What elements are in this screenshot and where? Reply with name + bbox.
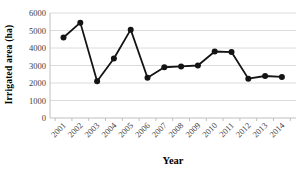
x-tick-label: 2009 bbox=[183, 120, 202, 139]
data-point-marker bbox=[195, 63, 201, 69]
data-point-marker bbox=[279, 74, 285, 80]
data-point-marker bbox=[77, 20, 83, 26]
x-tick-label: 2002 bbox=[66, 120, 85, 139]
data-point-marker bbox=[94, 78, 100, 84]
x-tick-label: 2007 bbox=[150, 120, 169, 139]
x-axis-title: Year bbox=[43, 155, 303, 166]
data-point-marker bbox=[111, 56, 117, 62]
data-point-marker bbox=[161, 64, 167, 70]
x-tick-label: 2001 bbox=[49, 120, 68, 139]
x-tick-label: 2005 bbox=[116, 120, 135, 139]
data-point-marker bbox=[145, 75, 151, 81]
x-tick-label: 2013 bbox=[250, 120, 269, 139]
x-tick-label: 2012 bbox=[234, 120, 253, 139]
x-tick-label: 2011 bbox=[217, 120, 236, 139]
data-line bbox=[64, 23, 282, 82]
line-chart: 0100020003000400050006000200120022003200… bbox=[0, 0, 303, 177]
y-axis-title: Irrigated area (ha) bbox=[4, 9, 17, 121]
x-tick-label: 2014 bbox=[267, 120, 287, 140]
data-point-marker bbox=[229, 49, 235, 55]
x-tick-label: 2008 bbox=[166, 120, 185, 139]
y-tick-label: 5000 bbox=[29, 26, 46, 36]
chart-container: 0100020003000400050006000200120022003200… bbox=[0, 0, 303, 177]
y-tick-label: 3000 bbox=[29, 61, 46, 71]
x-tick-label: 2004 bbox=[99, 120, 119, 140]
x-tick-label: 2010 bbox=[200, 120, 219, 139]
y-tick-label: 0 bbox=[42, 113, 46, 123]
x-tick-label: 2003 bbox=[82, 120, 101, 139]
data-point-marker bbox=[61, 35, 67, 41]
data-point-marker bbox=[128, 27, 134, 33]
data-point-marker bbox=[212, 49, 218, 55]
y-tick-label: 2000 bbox=[29, 78, 46, 88]
data-point-marker bbox=[245, 76, 251, 82]
y-tick-label: 4000 bbox=[29, 43, 46, 53]
data-point-marker bbox=[262, 73, 268, 79]
y-tick-label: 6000 bbox=[29, 8, 46, 18]
y-tick-label: 1000 bbox=[29, 96, 46, 106]
data-point-marker bbox=[178, 63, 184, 69]
x-tick-label: 2006 bbox=[133, 120, 152, 139]
